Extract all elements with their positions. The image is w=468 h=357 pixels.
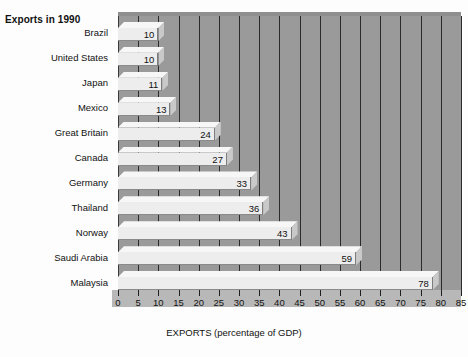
x-tick <box>158 290 159 296</box>
x-tick-label: 80 <box>436 297 447 308</box>
x-tick-label: 25 <box>214 297 225 308</box>
x-tick-label: 55 <box>335 297 346 308</box>
x-tick <box>118 290 119 296</box>
x-tick-label: 70 <box>395 297 406 308</box>
category-label: United States <box>51 52 108 63</box>
category-label: Mexico <box>78 102 108 113</box>
bar-value-label: 13 <box>130 104 166 115</box>
bars-layer: 7859433633272413111010 <box>118 16 461 290</box>
x-tick-label: 85 <box>456 297 467 308</box>
category-label: Canada <box>75 152 108 163</box>
bar-value-label: 27 <box>187 154 223 165</box>
x-tick-label: 75 <box>415 297 426 308</box>
category-label: Germany <box>69 176 108 187</box>
category-axis-labels: BrazilUnited StatesJapanMexicoGreat Brit… <box>0 16 113 290</box>
x-tick-label: 15 <box>173 297 184 308</box>
x-tick <box>179 290 180 296</box>
bar-value-label: 33 <box>211 178 247 189</box>
x-tick <box>259 290 260 296</box>
x-tick <box>239 290 240 296</box>
x-tick <box>360 290 361 296</box>
bar-value-label: 10 <box>118 54 154 65</box>
x-tick <box>199 290 200 296</box>
category-label: Norway <box>76 226 108 237</box>
x-tick-label: 0 <box>115 297 120 308</box>
x-tick <box>320 290 321 296</box>
category-label: Japan <box>82 77 108 88</box>
category-label: Saudi Arabia <box>54 251 108 262</box>
category-label: Great Britain <box>55 127 108 138</box>
exports-bar-chart: Exports in 1990 BrazilUnited StatesJapan… <box>0 0 468 357</box>
x-tick <box>340 290 341 296</box>
x-tick <box>400 290 401 296</box>
x-tick-label: 10 <box>153 297 164 308</box>
x-tick <box>421 290 422 296</box>
x-tick-label: 45 <box>294 297 305 308</box>
x-tick <box>219 290 220 296</box>
x-axis-title: EXPORTS (percentage of GDP) <box>0 327 468 338</box>
category-label: Thailand <box>72 201 108 212</box>
x-tick <box>138 290 139 296</box>
x-tick-label: 65 <box>375 297 386 308</box>
bar-value-label: 24 <box>175 129 211 140</box>
x-axis: 0510152025303540455055606570758085 <box>118 290 461 312</box>
bar-front-face <box>118 277 433 290</box>
x-tick-label: 40 <box>274 297 285 308</box>
category-label: Malaysia <box>71 276 109 287</box>
category-label: Brazil <box>84 27 108 38</box>
x-tick-label: 50 <box>314 297 325 308</box>
x-tick-label: 35 <box>254 297 265 308</box>
x-tick-label: 20 <box>193 297 204 308</box>
x-tick <box>300 290 301 296</box>
gridline-85 <box>461 16 462 290</box>
bar-value-label: 43 <box>252 228 288 239</box>
x-tick <box>380 290 381 296</box>
x-tick <box>279 290 280 296</box>
x-tick <box>441 290 442 296</box>
bar-value-label: 59 <box>316 253 352 264</box>
bar-value-label: 11 <box>122 79 158 90</box>
x-tick <box>461 290 462 296</box>
x-tick-label: 30 <box>234 297 245 308</box>
bar-value-label: 36 <box>223 203 259 214</box>
x-tick-label: 60 <box>355 297 366 308</box>
bar-value-label: 10 <box>118 29 154 40</box>
x-tick-label: 5 <box>136 297 141 308</box>
bar-value-label: 78 <box>393 278 429 289</box>
